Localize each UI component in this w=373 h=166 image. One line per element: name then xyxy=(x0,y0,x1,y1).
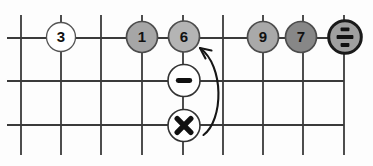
node-9-label: 9 xyxy=(259,28,267,45)
node-6-label: 6 xyxy=(180,28,188,45)
node-7-label: 7 xyxy=(297,28,305,45)
node-divide xyxy=(329,21,362,54)
node-9: 9 xyxy=(248,22,279,53)
node-minus xyxy=(168,65,200,97)
node-3: 3 xyxy=(47,23,76,52)
grid-diagram: 3 1 6 9 7 xyxy=(0,0,373,166)
node-1: 1 xyxy=(127,22,158,53)
node-multiply xyxy=(168,110,200,142)
minus-icon xyxy=(176,78,192,83)
node-6: 6 xyxy=(169,21,200,52)
node-1-label: 1 xyxy=(138,28,146,45)
node-3-label: 3 xyxy=(57,28,65,45)
arrow-curve xyxy=(200,48,218,135)
arrow-annotation xyxy=(200,48,218,135)
puzzle-grid-figure: 3 1 6 9 7 xyxy=(0,0,373,166)
node-7: 7 xyxy=(286,22,317,53)
